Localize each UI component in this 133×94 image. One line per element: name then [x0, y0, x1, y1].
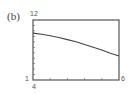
line-chart [0, 0, 133, 94]
plot-frame [33, 20, 119, 80]
axis-ticks [33, 25, 102, 80]
data-curve [33, 33, 119, 56]
